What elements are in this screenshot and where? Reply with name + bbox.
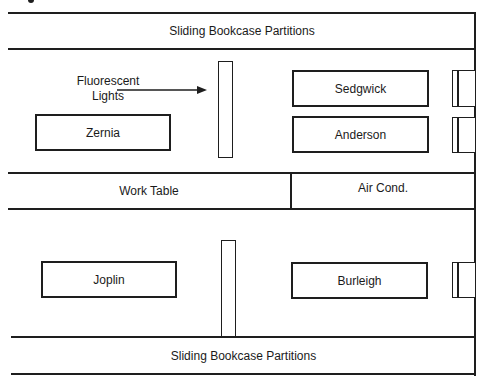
- wall-fixture-2: [452, 117, 475, 153]
- work-table-top-line: [8, 172, 476, 174]
- wall-fixture-1: [452, 70, 475, 107]
- fluorescent-light-lower: [221, 240, 236, 338]
- air-conditioner-label: Air Cond.: [292, 181, 474, 195]
- right-wall: [474, 12, 476, 376]
- cropped-caption-fragment: [28, 0, 34, 3]
- desk-label: Zernia: [86, 126, 120, 140]
- desk-label: Anderson: [335, 128, 386, 142]
- work-table-label: Work Table: [8, 184, 290, 198]
- fluorescent-light-upper: [218, 61, 233, 158]
- wall-fixture-3: [452, 262, 475, 298]
- work-table-bottom-line: [8, 208, 476, 210]
- desk-label: Joplin: [93, 273, 124, 287]
- bottom-partition-top-line: [11, 336, 476, 338]
- desk-sedgwick: Sedgwick: [292, 70, 429, 107]
- desk-burleigh: Burleigh: [291, 262, 428, 299]
- top-partition-bottom-line: [8, 48, 476, 50]
- top-partition-label: Sliding Bookcase Partitions: [8, 24, 476, 38]
- bottom-partition-bottom-line: [11, 373, 476, 375]
- bottom-partition-label: Sliding Bookcase Partitions: [11, 349, 476, 363]
- desk-anderson: Anderson: [292, 116, 429, 153]
- desk-joplin: Joplin: [41, 261, 177, 298]
- desk-zernia: Zernia: [35, 114, 171, 151]
- top-partition-top-line: [8, 12, 476, 14]
- arrow-icon: [115, 84, 210, 96]
- desk-label: Sedgwick: [335, 82, 386, 96]
- desk-label: Burleigh: [337, 274, 381, 288]
